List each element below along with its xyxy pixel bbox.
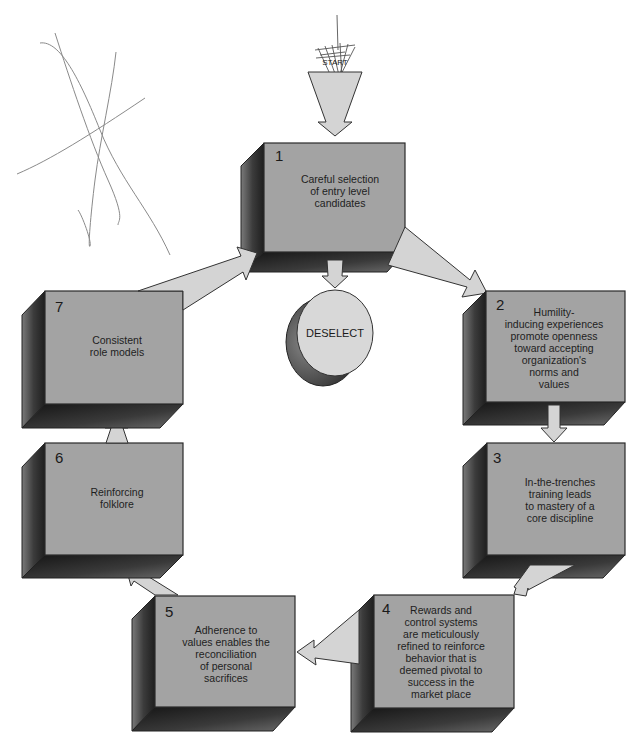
step-text-line: Careful selection: [301, 173, 379, 185]
arrow-start-to-1: [308, 72, 362, 136]
step-text-line: of entry level: [310, 185, 370, 197]
step-text-line: training leads: [529, 488, 591, 500]
step-box-6: 6 Reinforcing folklore: [22, 443, 183, 578]
step-text-line: Consistent: [92, 334, 142, 346]
arrow-4-to-5: [297, 610, 359, 665]
step-text-line: to mastery of a: [525, 500, 595, 512]
step-number: 2: [496, 296, 504, 313]
step-number: 1: [275, 147, 283, 164]
step-text-line: norms and: [529, 366, 579, 378]
step-text-line: success in the: [408, 676, 475, 688]
step-box-7: 7 Consistent role models: [22, 291, 183, 428]
step-text-line: core discipline: [527, 512, 594, 524]
step-text-line: Humility-: [534, 306, 575, 318]
step-text-line: refined to reinforce: [397, 640, 485, 652]
step-text-line: reconciliation: [195, 648, 256, 660]
deselect-cylinder: DESELECT: [286, 290, 373, 386]
step-text-line: behavior that is: [405, 652, 476, 664]
step-text-line: values enables the: [182, 636, 270, 648]
step-text-line: control systems: [405, 616, 478, 628]
step-number: 3: [493, 449, 501, 466]
step-box-1: 1 Careful selection of entry level candi…: [241, 143, 405, 272]
step-box-5: 5 Adherence to values enables the reconc…: [132, 596, 295, 731]
step-number: 4: [382, 600, 390, 617]
start-label: START: [322, 58, 348, 67]
step-text-line: In-the-trenches: [525, 476, 596, 488]
step-text-line: market place: [411, 688, 471, 700]
step-text-line: toward accepting: [514, 342, 594, 354]
step-text-line: folklore: [100, 498, 134, 510]
arrow-1-to-2: [388, 227, 487, 297]
step-text-line: role models: [90, 346, 144, 358]
step-text-line: candidates: [315, 197, 366, 209]
step-box-3: 3 In-the-trenches training leads to mast…: [463, 443, 625, 578]
culture-cycle-diagram: START 1 Careful selection of entry level…: [0, 0, 643, 748]
step-text-line: Adherence to: [195, 624, 258, 636]
step-number: 7: [55, 298, 63, 315]
pencil-scribble: [17, 33, 170, 255]
step-text-line: promote openness: [511, 330, 598, 342]
step-text-line: deemed pivotal to: [400, 664, 483, 676]
step-text-line: organization's: [522, 354, 586, 366]
step-text-line: values: [539, 378, 569, 390]
step-number: 5: [165, 603, 173, 620]
step-text-line: of personal: [200, 660, 252, 672]
deselect-label: DESELECT: [306, 327, 364, 339]
step-box-2: 2 Humility- inducing experiences promote…: [463, 291, 625, 425]
step-text-line: are meticulously: [403, 628, 480, 640]
step-text-line: Rewards and: [410, 604, 472, 616]
step-number: 6: [55, 449, 63, 466]
step-text-line: inducing experiences: [505, 318, 604, 330]
step-box-4: 4 Rewards and control systems are meticu…: [351, 595, 514, 732]
step-text-line: sacrifices: [204, 672, 248, 684]
step-text-line: Reinforcing: [90, 486, 143, 498]
